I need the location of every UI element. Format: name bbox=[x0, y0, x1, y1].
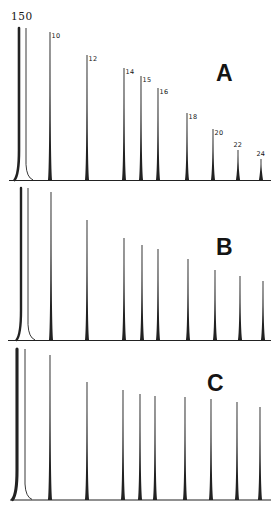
solvent-peak-front bbox=[13, 349, 18, 500]
peak-c10 bbox=[48, 355, 52, 500]
chromatogram-svg: 101214151618202224 bbox=[0, 0, 275, 507]
peak-c10 bbox=[49, 192, 53, 341]
peak-label-c24: 24 bbox=[257, 150, 266, 158]
peak-c24 bbox=[259, 159, 263, 181]
attenuation-label: 150 bbox=[11, 11, 33, 22]
peak-c18 bbox=[186, 259, 190, 341]
peak-label-c22: 22 bbox=[234, 141, 243, 149]
peak-c10 bbox=[48, 32, 52, 181]
solvent-peak-tail bbox=[25, 349, 32, 499]
peak-c16 bbox=[156, 249, 160, 341]
peak-c22 bbox=[235, 402, 239, 500]
peak-c12 bbox=[85, 382, 89, 500]
panel-label-c: C bbox=[207, 372, 224, 395]
solvent-peak-tail bbox=[26, 28, 33, 180]
peak-label-c10: 10 bbox=[52, 32, 61, 40]
peak-label-c14: 14 bbox=[126, 68, 135, 76]
peak-c12 bbox=[85, 55, 89, 181]
panel-label-b: B bbox=[216, 236, 233, 259]
peak-c14 bbox=[122, 238, 126, 341]
peak-c16 bbox=[153, 396, 157, 500]
peak-c20 bbox=[209, 399, 213, 500]
peak-c15 bbox=[138, 394, 142, 500]
peak-c14 bbox=[121, 390, 125, 500]
solvent-peak-front bbox=[17, 188, 22, 340]
panel-label-a: A bbox=[216, 62, 233, 85]
chromatogram-panel-b bbox=[8, 188, 271, 341]
peak-c24 bbox=[258, 407, 262, 500]
peak-label-c16: 16 bbox=[160, 88, 169, 96]
chromatogram-panel-a: 101214151618202224 bbox=[9, 28, 271, 181]
peak-label-c20: 20 bbox=[215, 129, 224, 137]
peak-c18 bbox=[185, 113, 189, 181]
chromatogram-figure: 101214151618202224 150 A B C bbox=[0, 0, 275, 507]
peak-label-c12: 12 bbox=[89, 55, 98, 63]
solvent-peak-tail bbox=[28, 188, 35, 340]
peak-c18 bbox=[183, 397, 187, 500]
peak-c16 bbox=[156, 88, 160, 181]
peak-c12 bbox=[85, 220, 89, 341]
peak-c22 bbox=[236, 150, 240, 181]
peak-c14 bbox=[122, 68, 126, 181]
peak-c15 bbox=[139, 76, 143, 181]
chromatogram-panel-c bbox=[10, 349, 271, 500]
peak-c22 bbox=[238, 276, 242, 341]
solvent-peak-front bbox=[15, 28, 20, 180]
peak-c15 bbox=[140, 245, 144, 341]
peak-c24 bbox=[261, 281, 265, 341]
peak-label-c18: 18 bbox=[189, 113, 198, 121]
peak-c20 bbox=[213, 270, 217, 341]
peak-label-c15: 15 bbox=[143, 76, 152, 84]
